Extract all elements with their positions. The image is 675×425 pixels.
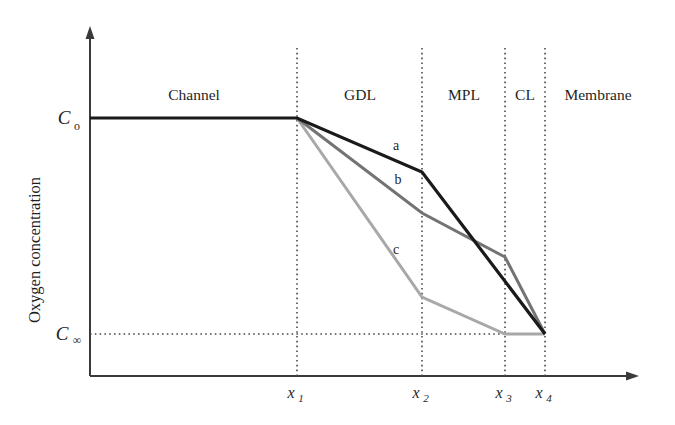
x-tick-x1-subscript: 1 [298, 392, 304, 404]
x-tick-x3: x 3 [494, 384, 512, 404]
curve-label-a: a [393, 138, 400, 153]
curve-b [297, 118, 545, 334]
x-tick-x1: x 1 [286, 384, 303, 404]
region-label-mpl: MPL [448, 86, 480, 103]
x-tick-x2-subscript: 2 [423, 392, 429, 404]
y-axis-arrowhead [86, 26, 95, 39]
x-tick-x4: x 4 [534, 384, 552, 404]
oxygen-concentration-figure: a b c Channel GDL MPL CL Membrane C o C … [0, 0, 675, 425]
region-label-channel: Channel [168, 86, 220, 103]
y-tick-c0-symbol: C [58, 107, 71, 128]
curve-label-c: c [393, 242, 399, 257]
x-axis-arrowhead [626, 372, 639, 381]
curve-label-b: b [395, 172, 402, 187]
x-tick-x3-symbol: x [494, 384, 502, 401]
y-tick-cinf-symbol: C [56, 323, 69, 344]
region-label-membrane: Membrane [564, 86, 631, 103]
y-tick-c0-subscript: o [74, 119, 80, 133]
y-tick-cinf-subscript: ∞ [73, 333, 82, 347]
x-tick-x4-subscript: 4 [546, 392, 552, 404]
x-axis [90, 372, 639, 381]
x-tick-x1-symbol: x [286, 384, 294, 401]
x-tick-x2: x 2 [411, 384, 429, 404]
x-tick-x3-subscript: 3 [505, 392, 512, 404]
y-axis-title: Oxygen concentration [25, 177, 44, 323]
curve-c [297, 118, 545, 334]
x-tick-x4-symbol: x [534, 384, 542, 401]
concentration-profile-chart: a b c Channel GDL MPL CL Membrane C o C … [0, 0, 675, 425]
curve-a [90, 118, 545, 334]
y-axis [86, 26, 95, 376]
x-tick-x2-symbol: x [411, 384, 419, 401]
region-label-gdl: GDL [344, 86, 376, 103]
y-tick-c0: C o [58, 107, 80, 133]
y-tick-cinf: C ∞ [56, 323, 82, 347]
region-label-cl: CL [515, 86, 535, 103]
